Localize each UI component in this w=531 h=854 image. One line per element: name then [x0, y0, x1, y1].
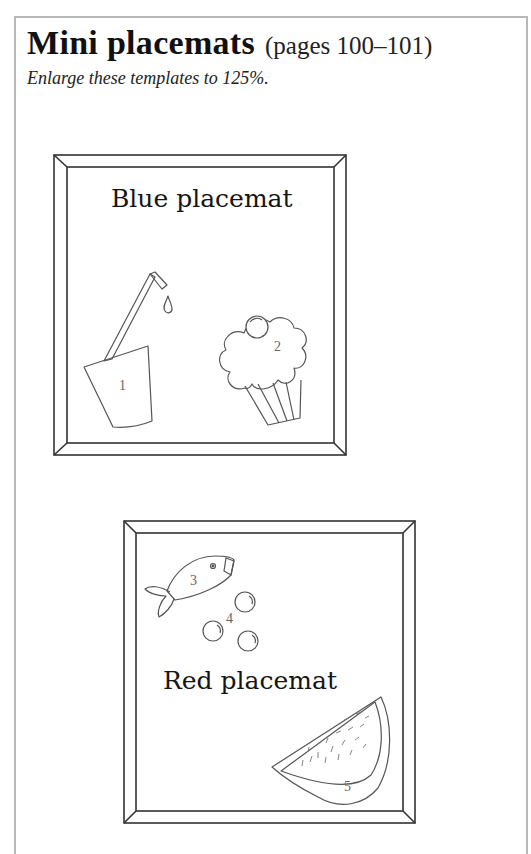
red-placemat-label: Red placemat: [163, 666, 337, 695]
glass-with-straw-icon: [84, 272, 172, 427]
item-number-4: 4: [226, 611, 233, 626]
cupcake-icon: [220, 316, 307, 425]
blue-placemat-label: Blue placemat: [111, 184, 293, 213]
item-number-2: 2: [274, 339, 281, 354]
item-number-3: 3: [190, 573, 197, 588]
item-number-1: 1: [119, 378, 126, 393]
placemats-artwork: 1 2 3 4: [0, 0, 531, 854]
item-number-5: 5: [344, 779, 351, 794]
watermelon-slice-icon: [272, 697, 390, 804]
